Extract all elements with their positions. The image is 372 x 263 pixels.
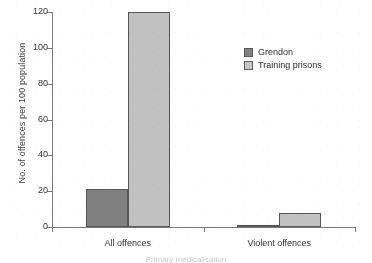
legend-swatch-icon [244,61,253,70]
chart-legend: GrendonTraining prisons [244,46,322,72]
bar-grendon-0 [86,189,128,227]
y-tick-label: 80 [38,78,48,88]
y-axis-title: No. of offences per 100 population [17,13,27,213]
y-tick-label: 0 [43,221,48,231]
cutoff-caption: Primary medicalisation [0,255,372,263]
y-tick-label: 40 [38,149,48,159]
x-tick-mark [52,227,53,232]
legend-item: Training prisons [244,59,322,71]
legend-label: Training prisons [258,60,322,70]
legend-label: Grendon [258,47,293,57]
bar-training-1 [279,213,321,227]
plot-area: 020406080100120 All offencesViolent offe… [52,12,355,227]
x-group-label: Violent offences [247,238,311,248]
legend-item: Grendon [244,46,322,58]
y-tick-label: 20 [38,185,48,195]
y-axis-line [52,12,53,227]
bar-training-0 [128,12,170,227]
y-tick-label: 120 [33,6,48,16]
x-group-label: All offences [105,238,151,248]
x-tick-mark [204,227,205,232]
bar-grendon-1 [237,225,279,227]
legend-swatch-icon [244,48,253,57]
y-tick-label: 60 [38,114,48,124]
y-tick-label: 100 [33,42,48,52]
x-tick-mark [355,227,356,232]
